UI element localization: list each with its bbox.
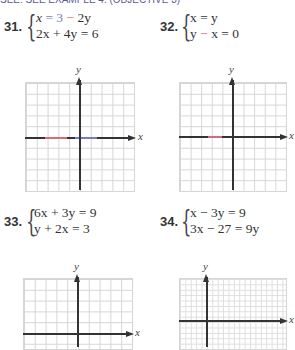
y-label: y <box>76 63 81 75</box>
y-arrow-icon <box>203 274 209 282</box>
equation-1: x = 3 − 2y <box>36 10 91 26</box>
x-axis <box>179 320 283 322</box>
equation-2: y + 2x = 3 <box>34 221 90 237</box>
x-label: x <box>135 326 140 338</box>
problem-number: 31. <box>4 19 22 34</box>
problem-32: 32. { x = y y − x = 0 <box>160 10 290 44</box>
x-arrow-icon <box>280 134 288 140</box>
equation-2: y − x = 0 <box>190 26 239 42</box>
y-label: y <box>229 63 234 75</box>
y-axis <box>77 277 79 347</box>
red-segment <box>208 136 222 138</box>
problem-number: 34. <box>160 214 178 229</box>
y-axis <box>232 80 234 190</box>
equation-2: 3x − 27 = 9y <box>190 221 259 237</box>
problem-34: 34. { x − 3y = 9 3x − 27 = 9y <box>160 205 290 239</box>
equation-1: x = y <box>190 10 218 26</box>
x-axis <box>23 333 129 335</box>
x-label: x <box>289 129 294 141</box>
y-arrow-icon <box>74 274 80 282</box>
y-label: y <box>203 260 208 272</box>
section-header: SEE: SEE EXAMPLE 4. (OBJECTIVE 3) <box>0 0 292 6</box>
y-label: y <box>74 260 79 272</box>
problem-number: 32. <box>160 19 178 34</box>
x-label: x <box>289 313 294 325</box>
x-arrow-icon <box>280 318 288 324</box>
x-axis <box>179 136 283 138</box>
equation-1: x − 3y = 9 <box>190 205 246 221</box>
problem-31: 31. { x = 3 − 2y 2x + 4y = 6 <box>4 10 154 44</box>
equation-1: 6x + 3y = 9 <box>34 205 96 221</box>
brace-icon: { <box>26 10 37 42</box>
red-segment <box>45 137 67 139</box>
y-arrow-icon <box>76 77 82 85</box>
problem-number: 33. <box>4 214 22 229</box>
x-arrow-icon <box>128 135 136 141</box>
problem-33: 33. { 6x + 3y = 9 y + 2x = 3 <box>4 205 154 239</box>
y-axis <box>206 277 208 347</box>
x-label: x <box>138 130 143 142</box>
y-arrow-icon <box>229 77 235 85</box>
equation-2: 2x + 4y = 6 <box>36 26 98 42</box>
y-axis <box>79 80 81 190</box>
graph-grid <box>179 278 287 350</box>
x-arrow-icon <box>126 331 134 337</box>
